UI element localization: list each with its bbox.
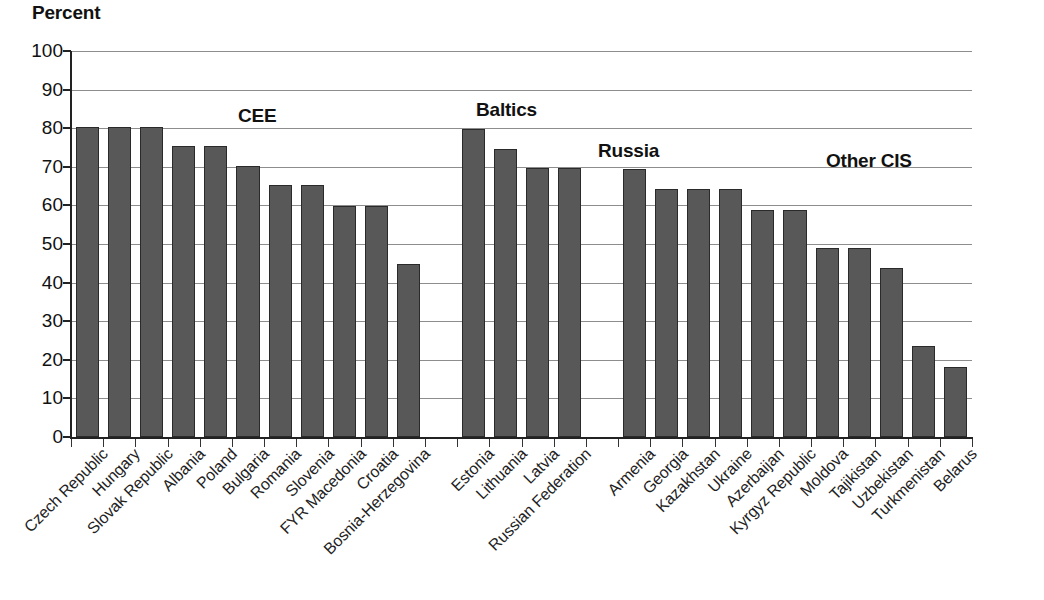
y-tick-label: 0 xyxy=(11,426,63,448)
bar xyxy=(108,127,131,437)
x-tick-mark xyxy=(264,439,265,447)
x-tick-mark xyxy=(875,439,876,447)
x-tick-mark xyxy=(200,439,201,447)
x-tick-mark xyxy=(103,439,104,447)
y-tick-label: 90 xyxy=(11,79,63,101)
bar xyxy=(880,268,903,437)
x-tick-mark xyxy=(779,439,780,447)
x-tick-mark xyxy=(554,439,555,447)
bar xyxy=(397,264,420,437)
x-tick-mark xyxy=(747,439,748,447)
group-label: Other CIS xyxy=(826,150,912,172)
x-tick-mark xyxy=(522,439,523,447)
y-tick-label: 10 xyxy=(11,387,63,409)
x-tick-mark xyxy=(296,439,297,447)
bar xyxy=(526,168,549,437)
bar xyxy=(558,168,581,437)
y-axis-line xyxy=(70,51,72,439)
bar xyxy=(236,166,259,437)
x-tick-mark xyxy=(393,439,394,447)
x-tick-mark xyxy=(682,439,683,447)
bar xyxy=(816,248,839,437)
gridline xyxy=(71,128,972,129)
bar xyxy=(462,129,485,437)
x-tick-mark xyxy=(972,439,973,447)
x-tick-mark xyxy=(361,439,362,447)
y-tick-label: 50 xyxy=(11,233,63,255)
x-tick-mark xyxy=(908,439,909,447)
x-tick-mark xyxy=(489,439,490,447)
y-tick-label: 60 xyxy=(11,194,63,216)
gridline xyxy=(71,90,972,91)
y-tick-label: 40 xyxy=(11,272,63,294)
x-tick-mark xyxy=(425,439,426,447)
bar xyxy=(623,169,646,437)
bar xyxy=(719,189,742,437)
y-tick-label: 20 xyxy=(11,349,63,371)
bar xyxy=(944,367,967,437)
x-tick-mark xyxy=(586,439,587,447)
bar xyxy=(783,210,806,437)
bar xyxy=(301,185,324,437)
bar xyxy=(751,210,774,437)
y-tick-label: 100 xyxy=(11,40,63,62)
bar xyxy=(687,189,710,437)
group-label: CEE xyxy=(238,105,276,127)
bar xyxy=(494,149,517,437)
x-tick-mark xyxy=(135,439,136,447)
bar xyxy=(365,206,388,437)
x-tick-mark xyxy=(715,439,716,447)
x-tick-mark xyxy=(168,439,169,447)
bar xyxy=(655,189,678,437)
x-tick-mark xyxy=(618,439,619,447)
x-tick-mark xyxy=(328,439,329,447)
group-label: Russia xyxy=(598,140,659,162)
x-tick-mark xyxy=(811,439,812,447)
bar xyxy=(333,206,356,437)
y-tick-label: 70 xyxy=(11,156,63,178)
bar xyxy=(269,185,292,437)
bar xyxy=(140,127,163,437)
bar xyxy=(172,146,195,437)
chart-figure: Percent 0102030405060708090100 Czech Rep… xyxy=(0,0,1044,600)
x-tick-mark xyxy=(940,439,941,447)
bar xyxy=(76,127,99,437)
x-tick-mark xyxy=(232,439,233,447)
bar xyxy=(204,146,227,437)
x-tick-mark xyxy=(843,439,844,447)
x-tick-mark xyxy=(457,439,458,447)
x-tick-mark xyxy=(71,439,72,447)
y-tick-label: 80 xyxy=(11,117,63,139)
bar xyxy=(912,346,935,437)
group-label: Baltics xyxy=(476,99,537,121)
gridline xyxy=(71,51,972,52)
x-tick-mark xyxy=(650,439,651,447)
y-tick-label: 30 xyxy=(11,310,63,332)
bar xyxy=(848,248,871,437)
